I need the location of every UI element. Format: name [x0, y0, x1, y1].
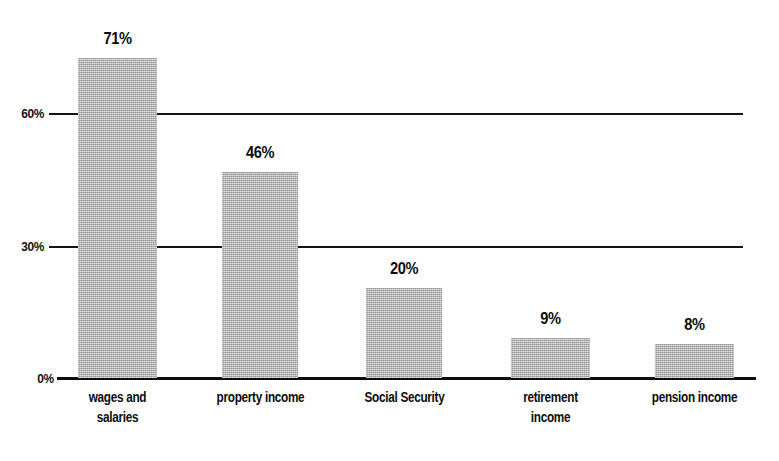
- bar-value-label-social-security: 20%: [371, 260, 436, 277]
- category-label-social-security: Social Security: [354, 388, 456, 408]
- category-label-property-income: property income: [210, 388, 312, 408]
- y-axis-label-30: 30%: [21, 239, 44, 254]
- y-axis-tick-60: 60%: [0, 104, 58, 122]
- bar-value-label-pension-income: 8%: [661, 316, 729, 333]
- bar-value-label-retirement-income: 9%: [517, 310, 585, 327]
- y-axis-label-60: 60%: [21, 106, 44, 121]
- bar-value-label-property-income: 46%: [227, 144, 292, 161]
- bar-value-label-wages-and-salaries: 71%: [84, 30, 152, 47]
- category-label-retirement-income: retirement income: [500, 388, 602, 428]
- bar-retirement-income: [511, 338, 590, 378]
- bar-wages-and-salaries: [78, 58, 157, 378]
- bar-social-security: [366, 288, 442, 378]
- bar-property-income: [222, 172, 298, 378]
- y-tick-dash-60: [49, 113, 58, 115]
- y-tick-dash-30: [49, 246, 58, 248]
- bar-chart: 60% 30% 0% 71% wages and salaries 46% pr…: [0, 0, 779, 461]
- y-axis-tick-0: 0%: [0, 369, 58, 387]
- bar-pension-income: [655, 344, 734, 378]
- gridline-60: [57, 113, 743, 115]
- y-axis-tick-30: 30%: [0, 237, 58, 255]
- gridline-30: [57, 246, 743, 248]
- y-axis-label-0: 0%: [37, 371, 54, 386]
- plot-area: 60% 30% 0% 71% wages and salaries 46% pr…: [0, 0, 779, 461]
- category-label-pension-income: pension income: [644, 388, 746, 408]
- category-label-wages-and-salaries: wages and salaries: [68, 388, 168, 428]
